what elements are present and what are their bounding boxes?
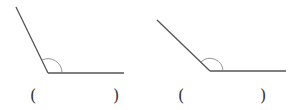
angle-figure-1 bbox=[16, 7, 124, 73]
angle-1-ray-1 bbox=[16, 7, 48, 73]
answer-2-open-paren: ( bbox=[178, 88, 184, 104]
answer-1-open-paren: ( bbox=[30, 88, 36, 104]
answer-2-close-paren: ) bbox=[260, 88, 266, 104]
angle-figure-2 bbox=[157, 20, 286, 71]
answer-1-close-paren: ) bbox=[113, 88, 119, 104]
angle-diagram bbox=[0, 0, 295, 110]
angle-2-ray-1 bbox=[157, 20, 210, 71]
